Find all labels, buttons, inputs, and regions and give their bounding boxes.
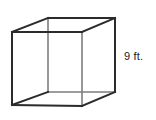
height-dimension-label: 9 ft. <box>124 50 143 62</box>
cube-figure: 9 ft. <box>0 0 156 120</box>
cube-edge-front-bottom <box>12 105 82 106</box>
